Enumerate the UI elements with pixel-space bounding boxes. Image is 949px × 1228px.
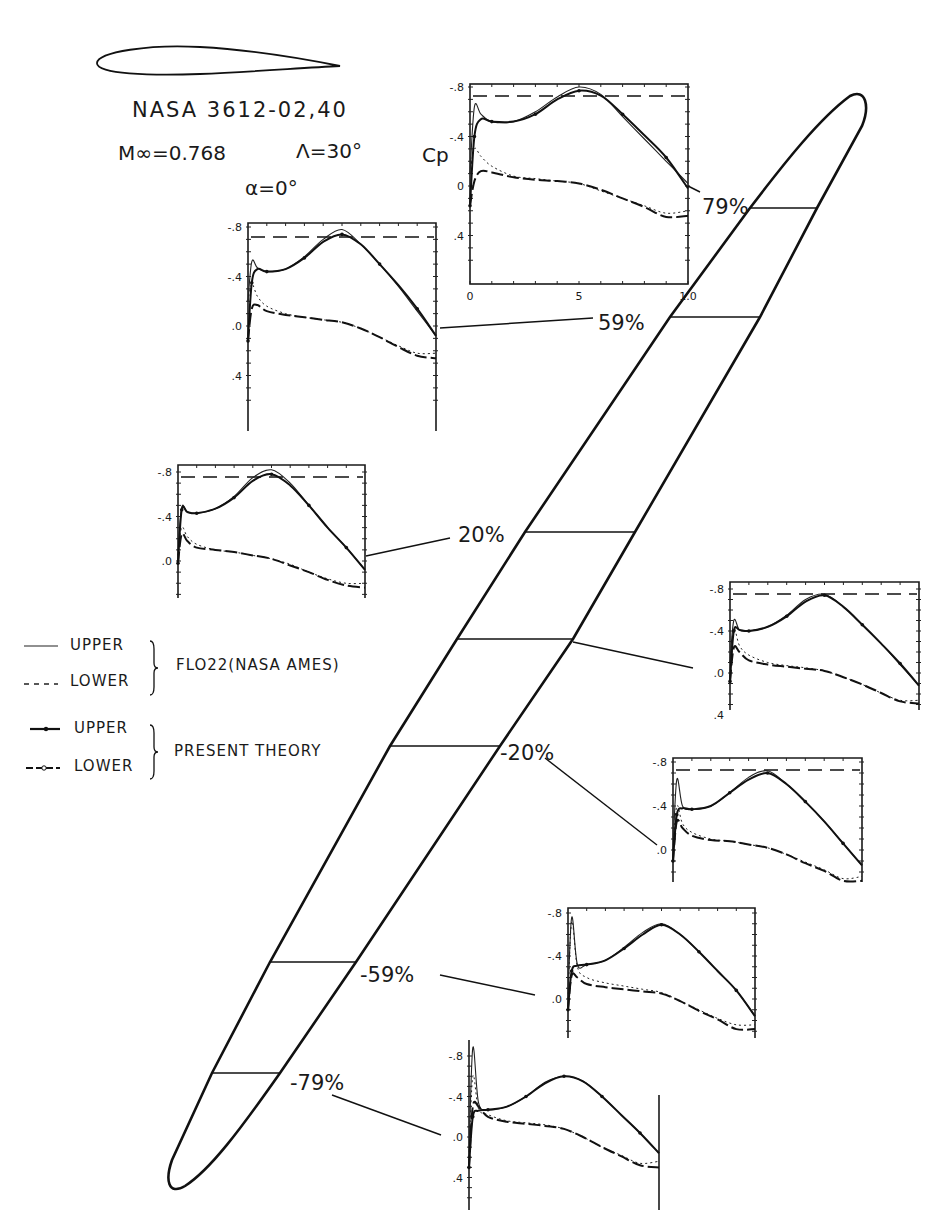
y-tick-label: -.8	[158, 466, 172, 479]
cp-panel--59pct: -.8-.4.0-59%	[360, 907, 757, 1038]
y-tick-label: .0	[453, 1131, 464, 1144]
panel-frame	[178, 465, 365, 598]
cp-panels: -.8-.40.4051.079%-.8-.4.0.459%-.8-.4.020…	[158, 81, 921, 1210]
flo22-upper-curve	[568, 917, 755, 1016]
x-tick-label: 1.0	[679, 290, 697, 303]
station-leader-line	[332, 1095, 441, 1135]
legend-flo22-upper-label: UPPER	[70, 636, 124, 654]
present-upper-marker-icon	[577, 89, 581, 93]
present-upper-marker-icon	[621, 112, 625, 116]
present-upper-marker-icon	[622, 947, 626, 951]
present-upper-marker-icon	[690, 808, 694, 812]
present-upper-marker-icon	[378, 262, 382, 266]
y-tick-label: -.4	[449, 1091, 463, 1104]
present-upper-marker-icon	[697, 950, 701, 954]
station-leader-line	[573, 642, 693, 668]
flo22-lower-curve	[730, 629, 919, 701]
flo22-upper-curve	[470, 87, 688, 184]
present-upper-marker-icon	[898, 662, 902, 666]
sweep-angle-label: Λ=30°	[296, 139, 362, 163]
panel-frame	[673, 758, 862, 882]
legend-flo22-group-label: FLO22(NASA AMES)	[176, 656, 340, 674]
present-upper-curve	[248, 234, 436, 341]
flo22-lower-curve	[248, 284, 436, 354]
present-lower-curve	[673, 820, 862, 882]
figure-canvas: NASA 3612-02,40 M∞=0.768 Λ=30° α=0° Cp -…	[0, 0, 949, 1228]
present-upper-curve	[673, 773, 862, 865]
present-lower-curve	[248, 304, 436, 358]
y-tick-label: -.4	[158, 511, 172, 524]
present-upper-marker-icon	[804, 800, 808, 804]
flo22-upper-curve	[248, 229, 436, 335]
present-upper-curve	[469, 1076, 659, 1167]
present-upper-marker-icon	[307, 504, 311, 508]
present-upper-marker-icon	[524, 1095, 528, 1099]
present-upper-marker-icon	[303, 256, 307, 260]
present-upper-curve	[568, 925, 755, 1016]
y-tick-label: -.8	[449, 1050, 463, 1063]
present-upper-marker-icon	[664, 156, 668, 160]
station-label: 79%	[702, 195, 749, 219]
panel-frame	[730, 582, 919, 710]
y-tick-label: .4	[232, 370, 243, 383]
y-tick-label: -.4	[450, 131, 464, 144]
present-upper-marker-icon	[473, 135, 477, 139]
legend-flo22-lower-label: LOWER	[70, 672, 129, 690]
present-upper-marker-icon	[675, 813, 679, 817]
y-tick-label: -.8	[228, 221, 242, 234]
y-tick-label: .0	[162, 555, 173, 568]
angle-of-attack-label: α=0°	[245, 176, 298, 200]
present-upper-marker-icon	[585, 963, 589, 967]
legend-present-group-label: PRESENT THEORY	[174, 742, 321, 760]
present-upper-marker-icon	[490, 120, 494, 124]
station-label: -20%	[500, 741, 554, 765]
station-label: -79%	[290, 1071, 344, 1095]
present-upper-curve	[470, 91, 688, 206]
y-tick-label: 0	[457, 180, 464, 193]
panel-frame	[568, 908, 755, 1038]
present-upper-marker-icon	[841, 842, 845, 846]
y-tick-label: -.4	[548, 950, 562, 963]
legend-flo22-brace-icon	[150, 641, 158, 695]
legend-present-lower-marker-icon	[42, 766, 46, 770]
station-leader-line	[440, 318, 593, 328]
present-upper-marker-icon	[747, 629, 751, 633]
present-upper-curve	[178, 474, 365, 570]
y-tick-label: .4	[454, 230, 465, 243]
airfoil-title: NASA 3612-02,40	[132, 98, 348, 122]
flo22-upper-curve	[673, 771, 862, 866]
y-tick-label: -.8	[653, 756, 667, 769]
x-tick-label: 0	[467, 290, 474, 303]
mach-number-label: M∞=0.768	[118, 141, 226, 165]
legend-present-upper-label: UPPER	[74, 719, 128, 737]
station-leader-line	[545, 758, 657, 845]
legend: UPPER LOWER FLO22(NASA AMES) UPPER LOWER…	[24, 636, 340, 779]
y-tick-label: -.8	[710, 583, 724, 596]
y-tick-label: -.8	[548, 907, 562, 920]
present-upper-marker-icon	[345, 546, 349, 550]
present-upper-marker-icon	[638, 1131, 642, 1135]
present-upper-marker-icon	[562, 1075, 566, 1079]
present-upper-marker-icon	[250, 281, 254, 285]
y-tick-label: -.8	[450, 81, 464, 94]
y-tick-label: -.4	[228, 271, 242, 284]
legend-present-brace-icon	[150, 725, 158, 779]
y-tick-label: .0	[657, 844, 668, 857]
panel-frame	[248, 223, 436, 431]
present-upper-marker-icon	[195, 511, 199, 515]
present-upper-marker-icon	[232, 496, 236, 500]
present-lower-curve	[469, 1102, 659, 1168]
flo22-lower-curve	[673, 805, 862, 879]
y-tick-label: .0	[232, 320, 243, 333]
y-tick-label: .0	[714, 667, 725, 680]
station-label: -59%	[360, 963, 414, 987]
flo22-upper-curve	[469, 1047, 659, 1157]
station-label: 20%	[458, 523, 505, 547]
present-upper-marker-icon	[728, 791, 732, 795]
y-tick-label: .4	[453, 1172, 464, 1185]
present-lower-curve	[178, 533, 365, 587]
present-upper-marker-icon	[785, 615, 789, 619]
present-upper-marker-icon	[735, 989, 739, 993]
present-upper-marker-icon	[660, 923, 664, 927]
cp-panel-59pct: -.8-.4.0.459%	[228, 221, 645, 431]
